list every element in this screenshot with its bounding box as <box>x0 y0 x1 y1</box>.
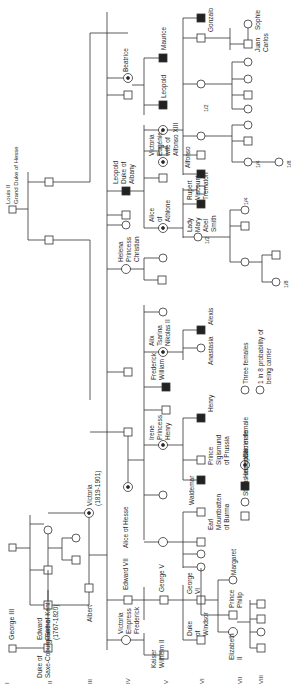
label-irene: Irene Princess Henry <box>148 415 172 440</box>
label-kaiser: Kaiser Wilhelm II <box>150 639 166 668</box>
label-saxe: Duke of Saxe-Coburg-Gotha <box>36 620 52 678</box>
fraction-eighth-1: 1/8 <box>285 160 291 168</box>
legend-probability-symbol <box>256 386 264 394</box>
label-beatrice: Beatrice <box>122 48 130 72</box>
gen-label-3: III <box>87 679 93 684</box>
label-alix: Alix Tsarina Nikolas II <box>148 319 172 346</box>
legend-uncertain-symbol <box>241 498 249 506</box>
label-alice-hesse: Alice of Hesse <box>122 506 130 548</box>
label-george3: George III <box>8 609 16 640</box>
fraction-eighth-2: 1/8 <box>282 280 290 288</box>
label-louis2: Louis II Grand Duke of Hesse <box>4 146 20 204</box>
label-sigismund: Prince Sigismund of Prussia <box>207 435 231 465</box>
label-margaret: Margaret <box>230 549 238 575</box>
label-alice-athlone: Alice of Athlone <box>148 200 172 222</box>
louis2-symbol <box>9 206 16 213</box>
gen-label-8: VIII <box>258 675 264 684</box>
george3-symbol <box>9 645 16 652</box>
label-gonzalo: Gonzalo <box>207 8 215 32</box>
label-juan: Juan Carlos <box>254 33 270 52</box>
gen-label-7: VII <box>237 677 243 684</box>
label-waldemar: Waldemar <box>188 476 196 505</box>
label-george6: George VI <box>186 572 202 594</box>
label-alfonso: Alfonso <box>184 146 192 168</box>
label-vic-empress: Victoria Empress Frederick <box>117 607 141 634</box>
label-philip: Prince Philip <box>228 590 244 608</box>
legend-uncertain-label: Status uncertain <box>242 449 250 496</box>
fraction-half-2: 1/2 <box>203 236 211 244</box>
label-sophie: Sophie <box>254 10 262 30</box>
label-henry: Henry <box>207 395 215 412</box>
gen-label-6: VI <box>199 678 205 684</box>
fraction-half-1: 1/2 <box>202 104 210 112</box>
pedigree-diagram: I II III IV V VI VII VIII George III Lou… <box>0 0 291 688</box>
fraction-quarter-1: 1/4 <box>254 160 262 168</box>
legend-prob-label: 1 in 8 probability of being carrier <box>257 329 273 384</box>
label-edward7: Edward VII <box>122 558 130 590</box>
gen-label-4: IV <box>125 678 131 684</box>
label-george5: George V <box>158 564 166 592</box>
gen-label-1: I <box>4 682 10 684</box>
label-windsor: Duke of Windsor <box>186 612 210 636</box>
label-vic-eugenie: Victoria Eugénie, wife of Alfonso XIII <box>148 123 180 156</box>
label-helena: Helena Princess Christian <box>117 236 141 262</box>
label-leopold: Leopold <box>160 75 168 98</box>
label-mountbatten: Earl Mountbatten of Burma <box>207 494 231 530</box>
legend-three-symbol <box>241 386 249 394</box>
label-anastasia: Anastasia <box>207 336 215 365</box>
label-leopold-albany: Leopold Duke of Albany <box>112 161 136 184</box>
label-elizabeth: Elizabeth II <box>228 633 244 660</box>
label-fred-william: Frederick William <box>150 353 166 380</box>
label-victoria: Victoria (1819-1901) <box>86 471 102 506</box>
gen-label-2: II <box>47 681 53 684</box>
legend-three-label: Three females <box>242 342 250 384</box>
fraction-quarter-2: 1/4 <box>242 197 250 205</box>
label-albert: Albert <box>86 605 94 622</box>
label-maurice: Maurice <box>160 27 168 50</box>
label-rupert: Rupert Viscount Trematon <box>186 172 210 200</box>
label-lady-mary: Lady Mary Abel Smith <box>186 215 218 232</box>
gen-label-5: V <box>163 680 169 684</box>
label-alexis: Alexis <box>207 308 215 325</box>
